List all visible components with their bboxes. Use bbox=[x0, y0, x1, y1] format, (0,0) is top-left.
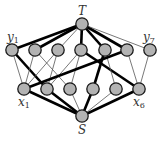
label-y7: y7 bbox=[142, 30, 155, 45]
node-S bbox=[76, 110, 88, 122]
node-T bbox=[76, 18, 88, 30]
node-x1 bbox=[18, 83, 30, 95]
node-y3 bbox=[52, 44, 64, 56]
node-x5 bbox=[110, 83, 122, 95]
label-x6: x6 bbox=[133, 95, 145, 110]
node-y1 bbox=[6, 44, 18, 56]
node-x2 bbox=[41, 83, 53, 95]
label-y1: y1 bbox=[6, 30, 19, 45]
node-y7 bbox=[144, 44, 156, 56]
edge-T-y1 bbox=[12, 24, 82, 50]
node-y2 bbox=[29, 44, 41, 56]
node-y5 bbox=[99, 44, 111, 56]
edges bbox=[12, 24, 150, 116]
node-x4 bbox=[87, 83, 99, 95]
label-T: T bbox=[78, 4, 87, 18]
node-x3 bbox=[64, 83, 76, 95]
node-x6 bbox=[133, 83, 145, 95]
label-S: S bbox=[78, 123, 86, 137]
flow-network-diagram: TSy1y7x1x6 bbox=[0, 0, 166, 142]
node-y6 bbox=[121, 44, 133, 56]
label-x1: x1 bbox=[18, 95, 30, 110]
node-y4 bbox=[75, 44, 87, 56]
